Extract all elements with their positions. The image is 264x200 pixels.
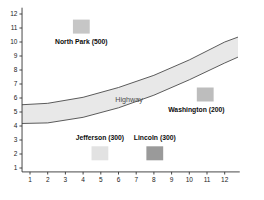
y-tick-label: 2	[14, 150, 18, 157]
x-tick-label: 4	[81, 176, 85, 183]
y-tick-label: 6	[14, 94, 18, 101]
y-tick-label: 8	[14, 66, 18, 73]
y-tick-label: 3	[14, 136, 18, 143]
marker-square-north-park	[73, 20, 90, 34]
marker-washington[interactable]: Washington (200)	[168, 88, 224, 115]
x-tick-label: 10	[186, 176, 194, 183]
y-tick-label: 11	[11, 24, 18, 31]
scatter-plot-svg: HighwayNorth Park (500)Washington (200)J…	[0, 0, 264, 200]
y-tick-label: 5	[14, 108, 18, 115]
y-tick-label: 12	[10, 10, 18, 17]
y-tick-label: 9	[14, 52, 18, 59]
x-tick-label: 2	[46, 176, 50, 183]
y-axis-ticks: 123456789101112	[10, 10, 22, 171]
marker-north-park[interactable]: North Park (500)	[55, 20, 108, 47]
x-tick-label: 8	[152, 176, 156, 183]
y-tick-label: 1	[14, 164, 18, 171]
marker-label-jefferson: Jefferson (300)	[76, 134, 124, 142]
x-tick-label: 1	[28, 176, 32, 183]
y-tick-label: 10	[10, 38, 18, 45]
marker-label-washington: Washington (200)	[168, 106, 224, 114]
x-tick-label: 11	[204, 176, 211, 183]
marker-square-jefferson	[92, 146, 109, 160]
marker-square-washington	[197, 88, 214, 102]
x-axis-ticks: 123456789101112	[28, 172, 229, 183]
x-tick-label: 9	[170, 176, 174, 183]
x-tick-label: 3	[64, 176, 68, 183]
x-tick-label: 5	[99, 176, 103, 183]
x-tick-label: 6	[117, 176, 121, 183]
y-tick-label: 7	[14, 80, 18, 87]
marker-square-lincoln	[146, 146, 163, 160]
x-tick-label: 12	[221, 176, 229, 183]
marker-label-north-park: North Park (500)	[55, 38, 108, 46]
chart-canvas: HighwayNorth Park (500)Washington (200)J…	[0, 0, 264, 200]
marker-jefferson[interactable]: Jefferson (300)	[76, 134, 124, 160]
y-tick-label: 4	[14, 122, 18, 129]
marker-lincoln[interactable]: Lincoln (300)	[134, 134, 176, 160]
marker-label-lincoln: Lincoln (300)	[134, 134, 176, 142]
band-annotation-label: Highway	[115, 95, 143, 104]
x-tick-label: 7	[134, 176, 138, 183]
